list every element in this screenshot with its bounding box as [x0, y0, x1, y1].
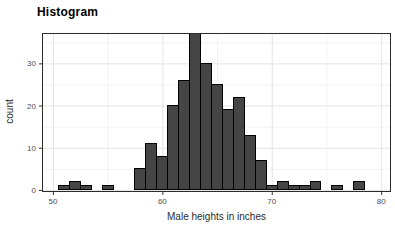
histogram-bar	[277, 181, 288, 189]
histogram-bar	[266, 186, 277, 190]
histogram-bar	[310, 181, 321, 189]
histogram-bar	[69, 181, 80, 189]
histogram-bar	[299, 186, 310, 190]
x-axis-title: Male heights in inches	[42, 211, 391, 222]
histogram-bar	[212, 84, 223, 189]
histogram-bar	[146, 143, 157, 189]
x-axis-tick-label: 60	[158, 197, 167, 206]
histogram-bar	[288, 186, 299, 190]
histogram-plot-canvas: 506070800102030	[0, 0, 395, 235]
histogram-bar	[244, 135, 255, 190]
histogram-bar	[58, 186, 69, 190]
histogram-bar	[157, 156, 168, 190]
histogram-bar	[190, 34, 201, 190]
histogram-bar	[223, 110, 234, 190]
histogram-figure: 506070800102030 Histogram count Male hei…	[0, 0, 395, 235]
histogram-bar	[179, 80, 190, 190]
x-axis-tick-label: 50	[48, 197, 57, 206]
y-axis-tick-label: 10	[27, 144, 36, 153]
y-axis-tick-label: 30	[27, 59, 36, 68]
histogram-bar	[255, 160, 266, 190]
y-axis-tick-label: 20	[27, 102, 36, 111]
histogram-bar	[233, 97, 244, 190]
x-axis-tick-label: 70	[267, 197, 276, 206]
histogram-bar	[332, 186, 343, 190]
histogram-bar	[354, 181, 365, 189]
histogram-bar	[102, 186, 113, 190]
histogram-bar	[201, 63, 212, 190]
histogram-bar	[135, 169, 146, 190]
y-axis-title: count	[4, 57, 15, 167]
chart-title: Histogram	[37, 5, 98, 19]
x-axis-tick-label: 80	[377, 197, 386, 206]
histogram-bar	[80, 186, 91, 190]
y-axis-tick-label: 0	[32, 186, 37, 195]
histogram-bar	[168, 106, 179, 190]
